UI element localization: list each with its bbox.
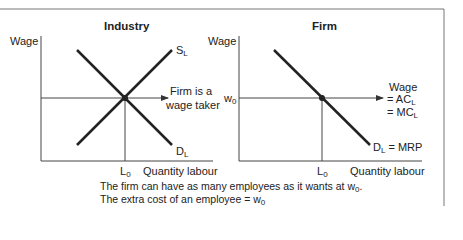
industry-demand-label: DL: [176, 145, 188, 157]
industry-x-mark: L0: [120, 165, 131, 177]
industry-title: Industry: [104, 20, 149, 32]
industry-equilibrium-dot: [122, 95, 128, 101]
industry-y-label: Wage: [10, 35, 38, 47]
industry-arrow-text-1: Firm is a: [170, 85, 212, 97]
firm-wage-label: Wage: [389, 81, 417, 93]
firm-x-label: Quantity labour: [350, 165, 425, 177]
firm-wage-mc-label: = MCL: [387, 106, 418, 118]
firm-x-mark: L0: [317, 165, 328, 177]
industry-supply-label: SL: [176, 44, 188, 56]
firm-equilibrium-dot: [319, 95, 325, 101]
firm-title: Firm: [312, 20, 337, 32]
industry-x-label: Quantity labour: [143, 165, 218, 177]
firm-demand-label: DL = MRP: [373, 141, 422, 153]
firm-w-mark: w0: [224, 92, 236, 104]
caption-line-2: The extra cost of an employee = w0: [100, 193, 265, 206]
firm-wage-ac-label: = ACL: [387, 93, 416, 105]
caption-line-1: The firm can have as many employees as i…: [100, 180, 362, 193]
industry-arrow-text-2: wage taker: [166, 99, 220, 111]
firm-y-label: Wage: [208, 35, 236, 47]
